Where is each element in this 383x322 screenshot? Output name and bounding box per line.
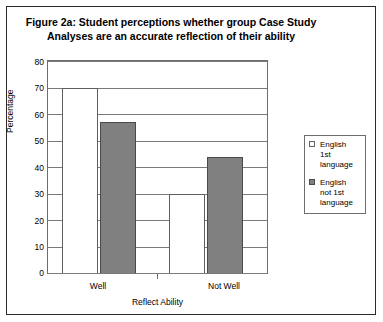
legend-label-line: English: [320, 178, 362, 188]
legend-swatch-icon-english-not-1st: [309, 179, 315, 185]
chart-title-line-1: Figure 2a: Student perceptions whether g…: [21, 15, 321, 29]
y-axis-title: Percentage: [5, 90, 15, 133]
legend-item-english-not-1st[interactable]: English not 1st language: [309, 178, 362, 208]
x-tick-label-well: Well: [90, 281, 106, 291]
y-tick-label-30: 30: [35, 189, 44, 199]
y-tick-label-60: 60: [35, 110, 44, 120]
legend-label-line: 1st: [320, 150, 362, 160]
bar-well-english-not-1st: [100, 122, 136, 273]
y-tick-label-20: 20: [35, 216, 44, 226]
y-tick-label-70: 70: [35, 83, 44, 93]
figure-frame: Figure 2a: Student perceptions whether g…: [6, 6, 376, 315]
legend-item-english-1st[interactable]: English 1st language: [309, 140, 362, 170]
y-tick-label-80: 80: [35, 57, 44, 67]
x-tick-label-not-well: Not Well: [208, 281, 240, 291]
legend-label-line: language: [320, 198, 362, 208]
chart-title: Figure 2a: Student perceptions whether g…: [21, 15, 321, 43]
y-tick-label-10: 10: [35, 242, 44, 252]
legend-swatch-icon-english-1st: [309, 141, 315, 147]
bar-notwell-english-1st: [169, 194, 205, 274]
legend-label-line: not 1st: [320, 188, 362, 198]
gridline-80: [48, 61, 267, 62]
bar-well-english-1st: [62, 88, 98, 274]
plot-area: 80 70 60 50 40 30 20 10 0: [47, 60, 268, 274]
x-axis-title: Reflect Ability: [47, 297, 268, 307]
y-tick-label-0: 0: [39, 268, 44, 278]
chart-title-line-2: Analyses are an accurate reflection of t…: [21, 29, 321, 43]
chart-legend: English 1st language English not 1st lan…: [304, 135, 366, 214]
legend-label-line: English: [320, 140, 362, 150]
x-axis-group-tick: [157, 274, 158, 279]
y-tick-label-40: 40: [35, 163, 44, 173]
bar-notwell-english-not-1st: [207, 157, 243, 274]
y-tick-label-50: 50: [35, 136, 44, 146]
legend-label-line: language: [320, 160, 362, 170]
